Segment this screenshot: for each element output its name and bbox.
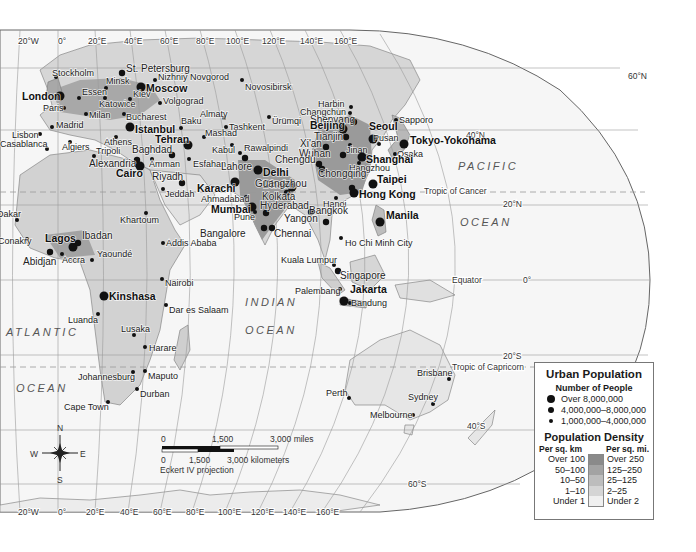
- reference-line-label: Tropic of Cancer: [424, 186, 487, 196]
- city-marker: Conakry: [0, 236, 32, 246]
- longitude-label: 0°: [58, 36, 66, 46]
- scale-km-0: 0: [161, 455, 166, 465]
- longitude-label: 140°E: [300, 36, 324, 46]
- ocean-label: ATLANTIC: [5, 326, 78, 338]
- city-label: Algiers: [62, 142, 90, 152]
- population-dot-icon: [547, 395, 555, 403]
- city-dot-icon: [339, 236, 343, 240]
- city-label: Luanda: [68, 315, 98, 325]
- city-label: Pusan: [373, 133, 399, 143]
- city-label: Baku: [181, 116, 202, 126]
- longitude-label: 60°E: [160, 36, 179, 46]
- city-label: Abidjan: [23, 256, 56, 267]
- city-label: Yaoundé: [97, 249, 132, 259]
- latitude-label: 0°: [523, 275, 531, 285]
- city-dot-icon: [323, 219, 329, 225]
- density-swatch: [588, 454, 604, 465]
- longitude-label: 20°E: [86, 507, 105, 517]
- city-marker: Amman: [149, 157, 180, 169]
- city-label: Jakarta: [350, 283, 387, 295]
- city-marker: Nizhniy Novgorod: [153, 72, 229, 82]
- city-marker: Madrid: [50, 120, 84, 130]
- scale-mi-0: 0: [161, 434, 166, 444]
- city-dot-icon: [431, 402, 435, 406]
- density-swatch: [588, 465, 604, 476]
- city-marker: Ho Chi Minh City: [339, 236, 413, 248]
- city-marker: Mashad: [202, 128, 237, 139]
- scale-mi-3000: 3,000 miles: [270, 434, 313, 444]
- density-swatch: [588, 486, 604, 497]
- density-km-label: Under 1: [539, 496, 585, 506]
- city-label: Accra: [62, 255, 85, 265]
- city-label: Melbourne: [370, 410, 413, 420]
- city-label: Chengdu: [275, 154, 316, 165]
- city-label: Kinshasa: [109, 290, 156, 302]
- density-mi-label: 25–125: [607, 475, 649, 485]
- longitude-label: 80°E: [196, 36, 215, 46]
- city-marker: Johannesburg: [78, 370, 135, 382]
- city-label: Guangzhou: [255, 178, 307, 189]
- population-dot-icon: [548, 407, 554, 413]
- city-label: Singapore: [340, 270, 386, 281]
- density-head-km: Per sq. km: [539, 444, 582, 454]
- density-class-row: Under 1Under 2: [539, 496, 649, 507]
- scale-km-1500: 1,500: [189, 455, 211, 465]
- legend-box: Urban Population Number of People Over 8…: [534, 362, 654, 520]
- density-class-row: Over 100Over 250: [539, 454, 649, 465]
- city-dot-icon: [340, 297, 349, 306]
- city-label: Khartoum: [120, 215, 159, 225]
- city-dot-icon: [84, 112, 88, 116]
- longitude-label: 20°E: [88, 36, 107, 46]
- longitude-label: 0°: [58, 507, 66, 517]
- city-marker: Chongqing: [318, 166, 366, 179]
- city-label: Addis Ababa: [166, 238, 217, 248]
- city-dot-icon: [350, 189, 359, 198]
- density-km-label: Over 100: [539, 454, 585, 464]
- city-dot-icon: [75, 240, 81, 246]
- density-title: Population Density: [539, 431, 649, 443]
- city-marker: Bandung: [348, 298, 387, 308]
- city-marker: Ürümqi: [267, 115, 301, 126]
- city-label: Delhi: [263, 166, 289, 178]
- city-marker: Durban: [135, 387, 170, 399]
- city-label: Minsk: [106, 76, 130, 86]
- city-dot-icon: [238, 151, 242, 155]
- city-dot-icon: [179, 126, 183, 130]
- city-label: Tripoli: [96, 146, 120, 156]
- city-label: Kiev: [133, 89, 151, 99]
- city-marker: Singapore: [335, 268, 386, 281]
- reference-line-label: Equator: [452, 275, 482, 285]
- city-label: Madrid: [56, 120, 84, 130]
- city-label: Chongqing: [318, 168, 366, 179]
- city-dot-icon: [347, 396, 351, 400]
- density-mi-label: 125–250: [607, 465, 649, 475]
- city-label: Ürümqi: [272, 116, 301, 126]
- city-label: Maputo: [148, 371, 178, 381]
- legend-subtitle: Number of People: [539, 383, 649, 393]
- population-class-row: Over 8,000,000: [547, 393, 649, 404]
- city-label: Riyadh: [152, 171, 183, 182]
- city-dot-icon: [267, 115, 271, 119]
- longitude-label: 100°E: [226, 36, 250, 46]
- city-label: Dakar: [0, 209, 21, 219]
- city-label: Bandung: [351, 298, 387, 308]
- city-label: Novosibirsk: [245, 82, 292, 92]
- city-dot-icon: [135, 387, 139, 391]
- city-dot-icon: [343, 134, 349, 140]
- city-label: Tokyo-Yokohama: [410, 134, 496, 146]
- longitude-label: 140°E: [283, 507, 307, 517]
- city-label: Sydney: [408, 392, 439, 402]
- compass-w: W: [30, 449, 38, 459]
- population-class-label: 1,000,000–4,000,000: [561, 416, 646, 426]
- city-label: Mashad: [205, 128, 237, 138]
- city-label: Manila: [386, 209, 419, 221]
- longitude-label: 100°E: [218, 507, 242, 517]
- city-label: Harare: [149, 343, 177, 353]
- projection-label: Eckert IV projection: [160, 465, 234, 475]
- density-mi-label: Under 2: [607, 496, 649, 506]
- city-dot-icon: [128, 97, 132, 101]
- density-swatch: [588, 475, 604, 486]
- density-header: Per sq. km Per sq. mi.: [539, 444, 649, 454]
- city-label: Ibadan: [82, 230, 113, 241]
- city-label: Nizhniy Novgorod: [158, 72, 229, 82]
